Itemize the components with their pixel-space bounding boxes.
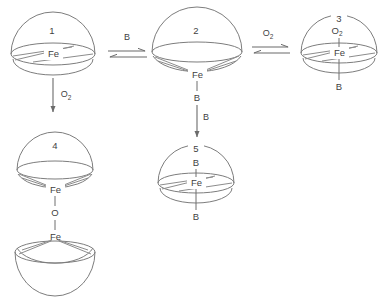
structure-4-metal-label: Fe: [50, 184, 61, 195]
structure-2-basal-plane: [152, 42, 242, 62]
structure-2-metal-label: Fe: [192, 69, 203, 80]
bond-structure2-B: B: [194, 81, 200, 103]
structure-3-number: 3: [336, 13, 341, 24]
structure-5-number: 5: [193, 143, 198, 154]
structure-4-basal-plane: [17, 161, 93, 179]
reaction-1-to-4-label-sub: 2: [68, 94, 72, 101]
structure-4-partner[interactable]: Fe: [15, 231, 95, 296]
structure-5-bottom-ligand: B: [193, 211, 199, 222]
structure-3-bottom-ligand: B: [336, 81, 342, 92]
mu-oxo-bridge: O: [51, 196, 58, 230]
structure-5[interactable]: 5 B Fe B: [158, 143, 234, 222]
structure-4[interactable]: 4 Fe: [17, 132, 93, 196]
reaction-2-to-5-label: B: [203, 112, 209, 122]
partner-bowl: [15, 252, 95, 296]
reaction-2-to-3-label-sub: 2: [270, 33, 274, 40]
reaction-1-to-4-label: O2: [61, 89, 72, 100]
reaction-2-to-3-label: O2: [263, 28, 274, 39]
partner-strap-a: [19, 241, 51, 254]
reaction-2-to-3-label-main: O: [263, 28, 270, 38]
structure-2-bottom-ligand: B: [194, 92, 200, 103]
structure-3-top-ligand-sub: 2: [339, 30, 343, 37]
equilibrium-scheme-svg: 1 Fe B 2 Fe O2: [0, 0, 390, 304]
structure-2[interactable]: 2 Fe: [152, 7, 242, 81]
structure-1-skirt: [13, 59, 93, 75]
structure-2-number: 2: [193, 25, 198, 36]
structure-1-number: 1: [49, 25, 54, 36]
structure-3[interactable]: 3 O2 Fe B: [301, 13, 377, 92]
partner-strap-c: [59, 241, 91, 254]
structure-5-top-ligand: B: [193, 157, 199, 168]
reaction-2-to-3[interactable]: O2: [252, 28, 290, 53]
structure-2-strap-a: [155, 57, 193, 72]
reaction-2-to-5[interactable]: B: [197, 105, 209, 137]
diagram-canvas: 1 Fe B 2 Fe O2: [0, 0, 390, 304]
bridging-oxygen-label: O: [51, 207, 58, 218]
partner-basal-plane: [15, 241, 95, 263]
structure-1-metal-label: Fe: [48, 48, 59, 59]
partner-strap-d: [58, 240, 88, 250]
structure-1[interactable]: 1 Fe: [11, 12, 95, 75]
structure-3-metal-label: Fe: [334, 47, 345, 58]
reaction-1-to-2-label: B: [124, 32, 130, 42]
reaction-1-to-2[interactable]: B: [108, 32, 147, 57]
structure-4-number: 4: [52, 140, 57, 151]
reaction-1-to-4[interactable]: O2: [53, 78, 72, 112]
partner-strap-b: [22, 240, 52, 250]
reaction-1-to-4-label-main: O: [61, 89, 68, 99]
structure-3-top-ligand-main: O: [331, 25, 338, 36]
structure-5-metal-label: Fe: [191, 177, 202, 188]
